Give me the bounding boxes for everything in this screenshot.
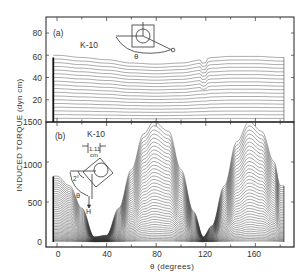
- xtick-160: 160: [247, 249, 261, 259]
- panel-a-sample: K-10: [80, 40, 98, 50]
- xtick-120: 120: [198, 249, 212, 259]
- inset-b-unit: cm: [90, 152, 98, 158]
- inset-b-theta: θ: [76, 191, 80, 200]
- inset-a-theta: θ: [134, 52, 139, 61]
- panel-a-frame: [46, 17, 294, 122]
- xtick-0: 0: [56, 249, 61, 259]
- y-axis-title: INDUCED TORQUE (dyn cm): [15, 79, 24, 192]
- ytick-b-0: 0: [37, 237, 42, 247]
- ytick-a-60: 60: [33, 52, 43, 62]
- panel-b-sample: K-10: [87, 129, 105, 139]
- ytick-b-500: 500: [28, 198, 42, 208]
- panel-a-curves: [53, 55, 284, 122]
- inset-b-H: H: [86, 208, 91, 215]
- inset-a-diagram: [116, 22, 175, 53]
- ytick-a-80: 80: [33, 28, 43, 38]
- torque-figure: 80 60 40 20 1500 1000 500 0 0 40 80 120 …: [0, 0, 299, 276]
- ytick-b-1500: 1500: [23, 117, 42, 127]
- ytick-a-40: 40: [33, 73, 43, 83]
- inset-b-angle: 2°: [73, 175, 80, 182]
- panel-b-curves: [53, 122, 284, 242]
- xtick-80: 80: [152, 249, 162, 259]
- ytick-b-1000: 1000: [23, 160, 42, 170]
- panel-b-label: (b): [55, 131, 66, 141]
- ytick-a-20: 20: [33, 95, 43, 105]
- panel-a-label: (a): [53, 28, 64, 38]
- x-axis-title: θ (degrees): [150, 262, 194, 271]
- xtick-40: 40: [102, 249, 112, 259]
